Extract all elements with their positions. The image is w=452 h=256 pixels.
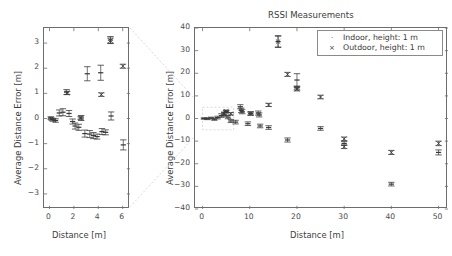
y-tick-label: 3: [19, 38, 39, 46]
chart-title: RSSI Measurements: [268, 10, 354, 20]
legend-box: · Indoor, height: 1 m × Outdoor, height:…: [317, 30, 443, 56]
x-tick-label: 4: [85, 213, 109, 221]
y-tick-label: −40: [170, 204, 190, 212]
data-point: [102, 130, 108, 135]
data-point: [265, 126, 271, 130]
data-point: [294, 87, 300, 91]
data-point: [435, 141, 441, 146]
data-point: [120, 64, 126, 68]
inset-x-axis-label: Distance [m]: [52, 231, 106, 239]
data-point: [82, 130, 88, 137]
x-tick-label: 2: [61, 213, 85, 221]
data-point: [435, 150, 441, 155]
series-indoor: [48, 37, 127, 150]
data-point: [84, 67, 90, 81]
legend-dot-marker-icon: ·: [321, 35, 343, 42]
figure-canvas: 3210−1−2−30246 Average Distance Error [m…: [0, 0, 452, 256]
data-point: [284, 72, 290, 76]
data-point: [317, 95, 323, 99]
data-point: [108, 112, 114, 120]
x-tick-label: 0: [36, 213, 60, 221]
data-point: [56, 110, 62, 116]
x-tick-label: 10: [237, 213, 261, 221]
x-tick-label: 40: [378, 213, 402, 221]
x-tick-label: 6: [110, 213, 134, 221]
data-point: [341, 145, 347, 149]
data-point: [98, 65, 104, 80]
y-tick-label: 40: [170, 23, 190, 31]
x-tick-label: 20: [284, 213, 308, 221]
data-point: [245, 122, 251, 126]
data-point: [87, 131, 93, 138]
data-point: [66, 110, 72, 116]
x-tick-label: 0: [190, 213, 214, 221]
data-point: [265, 103, 271, 107]
inset-plot-area: [43, 27, 129, 208]
data-point: [388, 182, 394, 186]
data-point: [341, 137, 347, 141]
inset-y-axis-label: Average Distance Error [m]: [14, 71, 22, 185]
data-point: [98, 92, 104, 96]
data-point: [388, 150, 394, 154]
data-point: [284, 138, 290, 142]
x-tick-label: 30: [331, 213, 355, 221]
legend-item-indoor: · Indoor, height: 1 m: [321, 33, 438, 43]
legend-cross-marker-icon: ×: [321, 45, 343, 52]
legend-item-outdoor: × Outdoor, height: 1 m: [321, 43, 438, 53]
data-point: [120, 140, 126, 150]
data-point: [64, 91, 70, 95]
y-tick-label: −3: [19, 189, 39, 197]
y-tick-label: 30: [170, 46, 190, 54]
data-point: [317, 127, 323, 131]
series-indoor: [201, 36, 442, 186]
legend-label-indoor: Indoor, height: 1 m: [343, 34, 418, 42]
y-tick-label: 2: [19, 63, 39, 71]
x-tick-label: 50: [426, 213, 450, 221]
legend-label-outdoor: Outdoor, height: 1 m: [343, 44, 425, 52]
main-x-axis-label: Distance [m]: [290, 231, 344, 239]
main-y-axis-label: Average Distance Error [m]: [166, 71, 174, 185]
data-point: [257, 124, 263, 128]
inset-data-layer: [44, 28, 130, 209]
data-point: [294, 74, 300, 87]
